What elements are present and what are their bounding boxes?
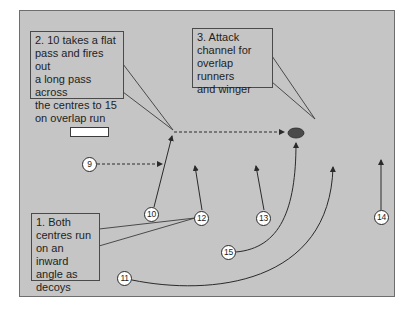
player-11: 11 xyxy=(117,271,132,286)
run-15 xyxy=(236,143,296,252)
note2-pointer xyxy=(123,64,173,130)
player-14: 14 xyxy=(374,210,389,225)
ball xyxy=(288,128,304,138)
player-13: 13 xyxy=(256,211,271,226)
run-10 xyxy=(154,136,172,207)
note-step-3: 3. Attack channel for overlap runners an… xyxy=(192,28,273,88)
run-12 xyxy=(195,166,202,210)
player-10: 10 xyxy=(144,207,159,222)
player-15: 15 xyxy=(221,245,236,260)
note-step-1: 1. Both centres run on an inward angle a… xyxy=(31,213,100,281)
note-step-2: 2. 10 takes a flat pass and fires out a … xyxy=(30,31,124,99)
run-13 xyxy=(256,166,264,210)
note1-pointer xyxy=(99,218,195,246)
note3-pointer xyxy=(272,56,315,119)
white-marker xyxy=(70,127,109,137)
player-12: 12 xyxy=(194,211,209,226)
player-9: 9 xyxy=(82,157,97,172)
